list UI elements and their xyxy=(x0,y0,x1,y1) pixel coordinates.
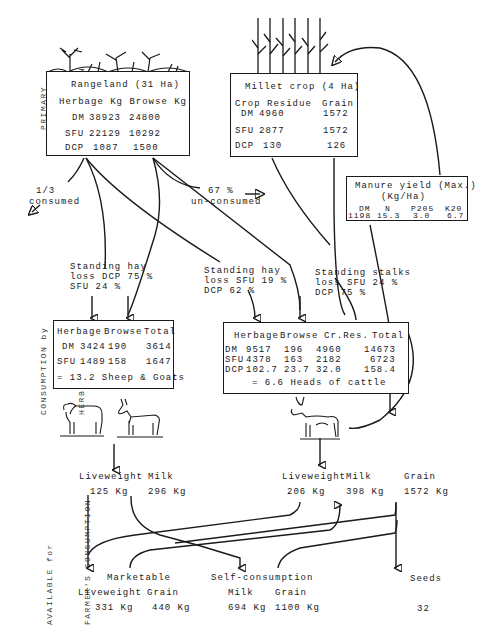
millet-box: Millet crop (4 Ha) Crop Residue Grain DM… xyxy=(230,73,358,157)
manure-val-p205: 3.0 xyxy=(413,212,430,220)
unconsumed-percent: 67 % xyxy=(208,187,234,196)
unconsumed-label: un-consumed xyxy=(191,198,261,207)
ss-milk-value: 296 Kg xyxy=(148,488,186,497)
ss-dm-browse: 190 xyxy=(108,343,127,352)
cattle-dm-herbage: 9517 xyxy=(246,346,272,355)
cattle-sfu-browse: 163 xyxy=(284,356,303,365)
ss-dm-label: DM xyxy=(62,343,75,352)
hay2-line1: Standing hay xyxy=(204,267,281,276)
cattle-sfu-crres: 2182 xyxy=(316,356,342,365)
cattle-header-crres: Cr.Res. xyxy=(324,332,369,341)
millet-header-grain: Grain xyxy=(322,100,354,109)
millet-dm-label: DM xyxy=(241,110,254,119)
cattle-sfu-label: SFU xyxy=(225,356,244,365)
rangeland-dm-browse: 24800 xyxy=(129,114,161,123)
hay1-line3: SFU 24 % xyxy=(70,283,121,292)
manure-val-n: 15.3 xyxy=(377,212,400,220)
cattle-header-total: Total xyxy=(372,332,404,341)
millet-dm-residue: 4960 xyxy=(259,110,285,119)
millet-title: Millet crop (4 Ha) xyxy=(245,83,360,92)
stalks-line3: DCP 75 % xyxy=(315,289,366,298)
cattle-header-herbage: Herbage xyxy=(234,332,279,341)
marketable-grain-label: Grain xyxy=(147,589,179,598)
self-milk-value: 694 Kg xyxy=(228,604,266,613)
small-stock-box: Herbage Browse Total DM 3424 190 3614 SF… xyxy=(53,320,174,389)
cattle-sfu-total: 6723 xyxy=(370,356,396,365)
manure-box: Manure yield (Max.) (Kg/Ha) DM N P205 K2… xyxy=(346,176,468,221)
ss-sfu-total: 1647 xyxy=(146,358,172,367)
rangeland-dcp-herbage: 1087 xyxy=(93,144,119,153)
ss-dm-herbage: 3424 xyxy=(80,343,106,352)
self-consumption-title: Self-consumption xyxy=(211,574,313,583)
millet-plant-icon xyxy=(252,18,332,74)
rangeland-header: Herbage Kg Browse Kg xyxy=(59,98,187,107)
marketable-grain-value: 440 Kg xyxy=(152,604,190,613)
ss-header-browse: Browse xyxy=(104,328,142,337)
grain-label: Grain xyxy=(404,473,436,482)
rangeland-sfu-browse: 10292 xyxy=(129,130,161,139)
cattle-header-browse: Browse xyxy=(280,332,318,341)
cattle-sfu-herbage: 4378 xyxy=(246,356,272,365)
goat-icon xyxy=(115,397,165,439)
millet-sfu-label: SFU xyxy=(235,127,254,136)
cattle-dcp-herbage: 102.7 xyxy=(246,366,278,375)
marketable-title: Marketable xyxy=(107,574,171,583)
millet-sfu-residue: 2877 xyxy=(259,127,285,136)
cattle-milk-value: 398 Kg xyxy=(346,488,384,497)
cattle-dm-crres: 4960 xyxy=(316,346,342,355)
millet-dcp-grain: 126 xyxy=(327,142,346,151)
cattle-dcp-total: 158.4 xyxy=(364,366,396,375)
ss-sfu-herbage: 1489 xyxy=(80,358,106,367)
rangeland-box: Rangeland (31 Ha) Herbage Kg Browse Kg D… xyxy=(46,71,190,156)
consumption-line1: CONSUMPTION by xyxy=(38,327,51,415)
cattle-dcp-label: DCP xyxy=(225,366,244,375)
ss-dm-total: 3614 xyxy=(146,343,172,352)
hay1-line1: Standing hay xyxy=(70,263,147,272)
manure-val-dm: 1198 xyxy=(348,212,371,220)
stalks-line2: loss SFU 24 % xyxy=(315,279,398,288)
rangeland-sfu-label: SFU xyxy=(65,130,84,139)
ss-liveweight-value: 125 Kg xyxy=(90,488,128,497)
hay2-line2: loss SFU 19 % xyxy=(204,277,287,286)
ss-sfu-label: SFU xyxy=(57,358,76,367)
rangeland-sfu-herbage: 22129 xyxy=(89,130,121,139)
millet-sfu-grain: 1572 xyxy=(323,127,349,136)
rangeland-title: Rangeland (31 Ha) xyxy=(71,81,180,90)
rangeland-dcp-label: DCP xyxy=(65,144,84,153)
self-grain-label: Grain xyxy=(275,589,307,598)
rangeland-dm-herbage: 38923 xyxy=(89,114,121,123)
hay2-line3: DCP 62 % xyxy=(204,287,255,296)
seeds-value: 32 xyxy=(417,605,430,614)
cattle-dcp-crres: 32.0 xyxy=(316,366,342,375)
manure-unit: (Kg/Ha) xyxy=(381,193,426,202)
millet-header-residue: Crop Residue xyxy=(235,100,312,109)
millet-dcp-label: DCP xyxy=(235,142,254,151)
cattle-liveweight-value: 206 Kg xyxy=(287,488,325,497)
rangeland-dm-label: DM xyxy=(72,114,85,123)
cattle-dm-label: DM xyxy=(225,346,238,355)
available-line2: FARMER'S CONSUMPTION xyxy=(82,499,95,625)
ss-liveweight-label: Liveweight xyxy=(79,473,143,482)
manure-val-k20: 6.7 xyxy=(447,212,464,220)
millet-dcp-residue: 130 xyxy=(263,142,282,151)
available-line1: AVAILABLE for xyxy=(44,499,57,625)
consumed-label: consumed xyxy=(29,198,80,207)
cattle-dm-total: 14673 xyxy=(364,346,396,355)
cattle-milk-label: Milk xyxy=(346,473,372,482)
cattle-icon xyxy=(288,395,348,441)
ss-sfu-browse: 158 xyxy=(108,358,127,367)
stalks-line1: Standing stalks xyxy=(315,269,411,278)
cattle-equivalent: = 6.6 Heads of cattle xyxy=(252,379,386,388)
shrub-icon xyxy=(48,44,188,74)
millet-dm-grain: 1572 xyxy=(323,110,349,119)
cattle-box: Herbage Browse Cr.Res. Total DM 9517 196… xyxy=(223,322,409,394)
sheep-icon xyxy=(60,400,105,438)
ss-header-herbage: Herbage xyxy=(57,328,102,337)
consumed-fraction: 1/3 xyxy=(36,187,55,196)
cattle-dm-browse: 196 xyxy=(284,346,303,355)
self-milk-label: Milk xyxy=(228,589,254,598)
hay1-line2: loss DCP 75 % xyxy=(70,273,153,282)
ss-equivalent: = 13.2 Sheep & Goats xyxy=(57,374,185,383)
ss-header-total: Total xyxy=(144,328,176,337)
cattle-liveweight-label: Liveweight xyxy=(282,473,346,482)
